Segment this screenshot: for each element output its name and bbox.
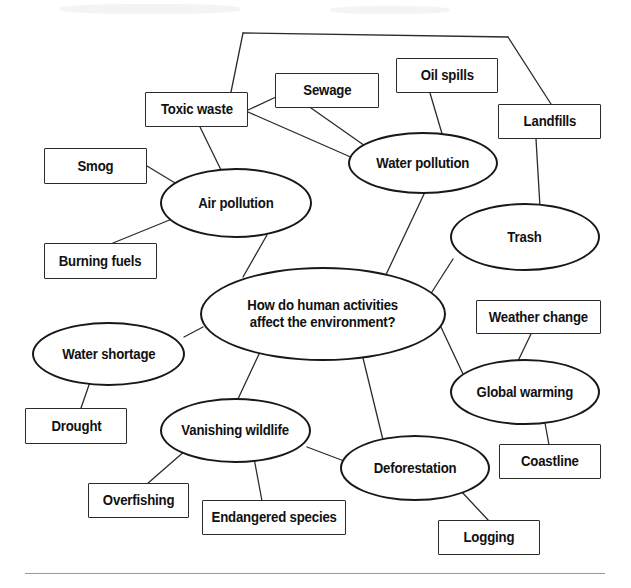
edge-burning-fuels-to-air-pollution bbox=[113, 219, 172, 243]
bottom-divider bbox=[25, 573, 605, 574]
edge-water-shortage-to-drought bbox=[81, 382, 90, 408]
node-label-weather-change: Weather change bbox=[489, 309, 588, 326]
node-central[interactable]: How do human activities affect the envir… bbox=[200, 267, 446, 361]
node-deforestation[interactable]: Deforestation bbox=[340, 435, 490, 501]
node-smog[interactable]: Smog bbox=[44, 148, 147, 184]
edge-deforestation-to-logging bbox=[460, 490, 489, 521]
node-label-smog: Smog bbox=[78, 158, 114, 175]
node-label-coastline: Coastline bbox=[521, 453, 579, 470]
edge-toxic-waste-to-sewage bbox=[248, 97, 276, 110]
node-logging[interactable]: Logging bbox=[438, 520, 540, 555]
edge-vanishing-wildlife-to-overfishing bbox=[147, 450, 186, 484]
node-label-global-warming: Global warming bbox=[477, 384, 574, 401]
edge-water-pollution-to-central bbox=[383, 192, 425, 281]
node-label-logging: Logging bbox=[464, 529, 515, 546]
edge-toxic-waste-to-air-pollution bbox=[200, 127, 222, 172]
node-label-central: How do human activities affect the envir… bbox=[248, 297, 399, 331]
node-label-toxic-waste: Toxic waste bbox=[161, 101, 233, 118]
node-coastline[interactable]: Coastline bbox=[499, 444, 601, 479]
edge-central-to-global-warming bbox=[440, 325, 463, 374]
edge-sewage-to-water-pollution bbox=[311, 108, 368, 148]
node-burning-fuels[interactable]: Burning fuels bbox=[44, 243, 157, 279]
node-label-vanishing-wildlife: Vanishing wildlife bbox=[182, 422, 290, 439]
node-label-burning-fuels: Burning fuels bbox=[59, 253, 142, 270]
node-label-trash: Trash bbox=[508, 229, 542, 246]
node-trash[interactable]: Trash bbox=[450, 203, 600, 271]
node-label-landfills: Landfills bbox=[523, 113, 576, 130]
node-label-water-shortage: Water shortage bbox=[62, 346, 155, 363]
node-toxic-waste[interactable]: Toxic waste bbox=[145, 92, 248, 127]
node-weather-change[interactable]: Weather change bbox=[476, 300, 601, 334]
edge-hex-right-vertex-to-landfills bbox=[508, 37, 551, 104]
edge-oil-spills-to-water-pollution bbox=[430, 93, 443, 137]
node-landfills[interactable]: Landfills bbox=[498, 104, 601, 139]
node-drought[interactable]: Drought bbox=[25, 408, 127, 444]
edge-central-to-deforestation bbox=[363, 358, 383, 440]
node-label-drought: Drought bbox=[51, 418, 101, 435]
edge-landfills-to-trash bbox=[536, 139, 540, 207]
node-sewage[interactable]: Sewage bbox=[275, 73, 379, 108]
node-label-air-pollution: Air pollution bbox=[198, 195, 273, 212]
node-label-oil-spills: Oil spills bbox=[420, 67, 473, 84]
node-oil-spills[interactable]: Oil spills bbox=[396, 58, 498, 93]
node-overfishing[interactable]: Overfishing bbox=[88, 483, 189, 518]
edge-central-to-water-shortage bbox=[184, 327, 203, 337]
edge-toxic-waste-to-hex-top-left-vertex bbox=[231, 33, 243, 92]
node-label-endangered-species: Endangered species bbox=[211, 509, 336, 526]
node-label-overfishing: Overfishing bbox=[103, 492, 174, 509]
edge-toxic-waste-to-water-pollution bbox=[248, 112, 362, 162]
node-air-pollution[interactable]: Air pollution bbox=[160, 168, 312, 238]
edge-vanishing-wildlife-to-endangered-species bbox=[254, 458, 262, 501]
edge-global-warming-to-coastline bbox=[545, 423, 549, 445]
node-label-water-pollution: Water pollution bbox=[377, 155, 470, 172]
concept-map-page: Toxic wasteSewageOil spillsLandfillsSmog… bbox=[0, 0, 631, 588]
edge-central-to-vanishing-wildlife bbox=[237, 352, 260, 401]
node-water-shortage[interactable]: Water shortage bbox=[32, 322, 185, 386]
node-water-pollution[interactable]: Water pollution bbox=[348, 132, 498, 194]
node-label-sewage: Sewage bbox=[303, 82, 351, 99]
edge-hex-top-vertex-to-hex-top-right-vertex bbox=[243, 33, 508, 37]
edge-air-pollution-to-central bbox=[243, 235, 267, 277]
node-label-deforestation: Deforestation bbox=[374, 460, 457, 477]
node-global-warming[interactable]: Global warming bbox=[450, 359, 600, 425]
node-vanishing-wildlife[interactable]: Vanishing wildlife bbox=[160, 398, 311, 463]
node-endangered-species[interactable]: Endangered species bbox=[202, 500, 346, 535]
